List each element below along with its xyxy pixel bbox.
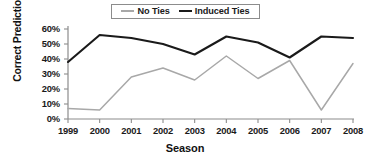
x-axis-title: Season: [0, 142, 370, 154]
x-tick-label: 2008: [333, 126, 370, 135]
line-chart-figure: No Ties Induced Ties Correct Predictions…: [0, 0, 370, 166]
